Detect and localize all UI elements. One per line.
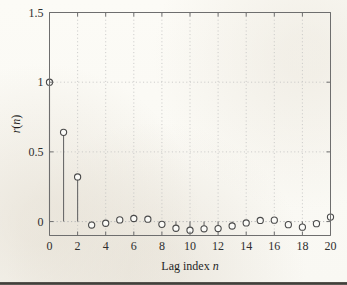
stem-plot: 02468101214161820 00.511.5 Lag index n r… — [0, 0, 347, 285]
axis-ticks — [50, 13, 331, 236]
y-tick-label: 0.5 — [29, 145, 44, 159]
x-tick-label: 16 — [268, 239, 280, 253]
y-tick-label: 1 — [38, 75, 44, 89]
x-tick-labels: 02468101214161820 — [47, 239, 337, 253]
y-tick-label: 0 — [38, 215, 44, 229]
stem-lines — [50, 82, 331, 230]
y-tick-label: 1.5 — [29, 6, 44, 20]
y-tick-labels: 00.511.5 — [29, 6, 44, 229]
x-tick-label: 8 — [159, 239, 165, 253]
x-tick-label: 0 — [47, 239, 53, 253]
x-tick-label: 2 — [75, 239, 81, 253]
axis-frame — [50, 13, 331, 236]
x-tick-label: 20 — [325, 239, 337, 253]
x-tick-label: 12 — [212, 239, 224, 253]
gridlines — [50, 13, 331, 236]
x-tick-label: 4 — [103, 239, 109, 253]
x-tick-label: 18 — [296, 239, 308, 253]
figure-canvas: 02468101214161820 00.511.5 Lag index n r… — [0, 0, 347, 285]
x-tick-label: 6 — [131, 239, 137, 253]
x-tick-label: 14 — [240, 239, 252, 253]
y-axis-label: r(n) — [9, 115, 23, 134]
data-markers — [46, 79, 333, 233]
x-axis-label: Lag index n — [161, 259, 218, 273]
x-tick-label: 10 — [184, 239, 196, 253]
